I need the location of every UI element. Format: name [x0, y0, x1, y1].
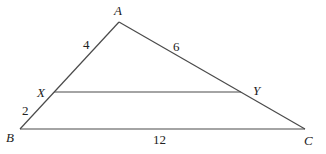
diagram-canvas: A B C X Y 4 6 2 12: [0, 0, 326, 154]
triangle-diagram: A B C X Y 4 6 2 12: [0, 0, 326, 154]
vertex-label-x: X: [36, 85, 46, 100]
vertex-label-y: Y: [253, 83, 262, 98]
vertex-label-a: A: [113, 3, 122, 18]
length-label-ax: 4: [83, 37, 90, 52]
length-label-bc: 12: [153, 132, 166, 147]
segment-ab: [20, 22, 119, 129]
length-label-ay: 6: [173, 39, 180, 54]
length-label-xb: 2: [22, 103, 29, 118]
segment-ac: [119, 22, 305, 129]
vertex-label-c: C: [304, 133, 313, 148]
vertex-label-b: B: [6, 130, 14, 145]
